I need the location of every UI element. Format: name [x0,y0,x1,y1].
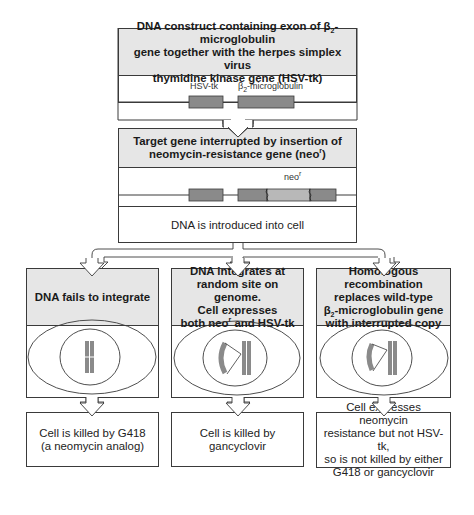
cell-outline-icon [174,321,300,395]
recombined-dna-icon [369,344,372,370]
chromosome-icon [242,341,246,375]
arrow-down-icon [80,258,104,276]
arrow-down-icon [373,258,396,276]
arrow-down-icon [226,258,250,276]
nucleus-outline-icon [203,330,267,386]
cells-overlay [0,0,474,515]
cell-outline-icon [320,321,448,395]
arrow-down-icon [226,397,250,416]
arrow-down-icon [80,397,104,416]
chromosome-icon [388,341,392,375]
arrow-down-icon [372,397,396,416]
integrated-dna-icon [221,343,225,373]
